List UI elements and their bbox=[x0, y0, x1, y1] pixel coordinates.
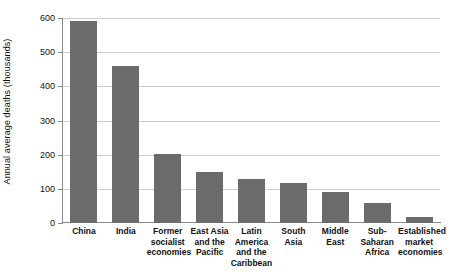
x-axis-tick-label-line: Latin bbox=[231, 226, 273, 237]
x-axis-tick-label-line: Africa bbox=[356, 247, 398, 258]
bar bbox=[364, 203, 391, 224]
x-axis-tick-label-line: Pacific bbox=[189, 247, 231, 258]
x-axis-tick-label: LatinAmericaand theCaribbean bbox=[231, 226, 273, 268]
x-axis-tick-label-line: America bbox=[231, 237, 273, 248]
y-axis-tick-label: 100 bbox=[0, 184, 55, 193]
y-axis-tick-label: 400 bbox=[0, 82, 55, 91]
x-axis-tick-label: China bbox=[63, 226, 105, 237]
plot-area bbox=[63, 18, 440, 223]
y-axis-tick-label: 200 bbox=[0, 150, 55, 159]
bar bbox=[280, 183, 307, 223]
x-axis-tick-label-line: East bbox=[314, 237, 356, 248]
x-axis-tick-labels: ChinaIndiaFormersocialisteconomiesEast A… bbox=[63, 226, 440, 278]
x-axis-tick-label-line: Asia bbox=[272, 237, 314, 248]
bar-chart: Annual average deaths (thousands) 010020… bbox=[0, 0, 451, 280]
bar bbox=[196, 172, 223, 223]
x-axis-tick-label-line: China bbox=[63, 226, 105, 237]
x-axis-tick-label-line: socialist bbox=[147, 237, 189, 248]
x-axis-tick-label-line: Middle bbox=[314, 226, 356, 237]
y-axis-tick bbox=[58, 223, 63, 224]
x-axis-tick-label-line: Caribbean bbox=[231, 258, 273, 269]
x-axis-tick-label-line: Sub- bbox=[356, 226, 398, 237]
x-axis-tick-label: MiddleEast bbox=[314, 226, 356, 247]
x-axis-tick-label-line: economies bbox=[147, 247, 189, 258]
x-axis-tick-label-line: and the bbox=[231, 247, 273, 258]
y-axis-tick-label: 300 bbox=[0, 116, 55, 125]
x-axis-tick-label-line: Established bbox=[398, 226, 440, 237]
bar-series bbox=[63, 18, 440, 223]
y-axis-tick-label: 600 bbox=[0, 14, 55, 23]
bar bbox=[112, 66, 139, 223]
bar bbox=[322, 192, 349, 223]
y-axis-tick-label: 500 bbox=[0, 48, 55, 57]
x-axis-tick-label-line: East Asia bbox=[189, 226, 231, 237]
x-axis-tick-label-line: Saharan bbox=[356, 237, 398, 248]
y-axis-tick-label: 0 bbox=[0, 219, 55, 228]
x-axis-tick-label-line: and the bbox=[189, 237, 231, 248]
x-axis-tick-label-line: India bbox=[105, 226, 147, 237]
x-axis-tick-label-line: market bbox=[398, 237, 440, 248]
x-axis-tick-label-line: South bbox=[272, 226, 314, 237]
bar bbox=[154, 154, 181, 223]
x-axis-tick-label: East Asiaand thePacific bbox=[189, 226, 231, 258]
bar bbox=[238, 179, 265, 223]
y-axis-tick-labels: 0100200300400500600 bbox=[0, 18, 55, 223]
x-axis-tick-label: Establishedmarketeconomies bbox=[398, 226, 440, 258]
x-axis-tick-label: India bbox=[105, 226, 147, 237]
x-axis-tick-label-line: economies bbox=[398, 247, 440, 258]
x-axis-tick-label: Sub-SaharanAfrica bbox=[356, 226, 398, 258]
x-axis-tick-label-line: Former bbox=[147, 226, 189, 237]
bar bbox=[70, 21, 97, 223]
bar bbox=[406, 217, 433, 223]
x-axis-tick-label: SouthAsia bbox=[272, 226, 314, 247]
x-axis-tick-label: Formersocialisteconomies bbox=[147, 226, 189, 258]
